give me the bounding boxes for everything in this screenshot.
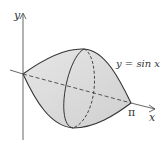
curve-label: y = sin x bbox=[116, 59, 160, 69]
y-axis-label: y bbox=[14, 10, 20, 21]
x-axis-label: x bbox=[149, 112, 155, 123]
diagram-canvas bbox=[0, 0, 165, 148]
solid-of-revolution-diagram: y y = sin x π x bbox=[0, 0, 165, 148]
x-axis-left bbox=[10, 70, 23, 74]
pi-label: π bbox=[128, 107, 135, 118]
